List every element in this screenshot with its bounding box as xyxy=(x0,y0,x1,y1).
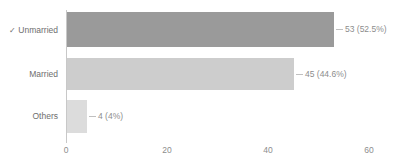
leader-line-unmarried xyxy=(336,29,343,30)
leader-line-others xyxy=(89,116,96,117)
value-label-unmarried: 53 (52.5%) xyxy=(345,24,387,34)
category-label-text: Unmarried xyxy=(18,25,58,35)
category-label-others[interactable]: Others xyxy=(0,111,58,122)
x-axis-origin-tick xyxy=(66,139,67,143)
check-icon: ✓ xyxy=(9,26,16,35)
x-tick-label-60: 60 xyxy=(364,145,373,155)
bar-row-unmarried[interactable]: ✓Unmarried 53 (52.5%) xyxy=(0,12,395,47)
category-label-text: Others xyxy=(32,111,58,121)
bar-others[interactable] xyxy=(67,100,87,133)
value-label-others: 4 (4%) xyxy=(98,111,123,121)
category-label-text: Married xyxy=(29,69,58,79)
value-label-married: 45 (44.6%) xyxy=(305,69,347,79)
bar-row-others[interactable]: Others 4 (4%) xyxy=(0,100,395,133)
category-label-unmarried[interactable]: ✓Unmarried xyxy=(0,25,58,36)
x-tick-label-40: 40 xyxy=(263,145,272,155)
bar-married[interactable] xyxy=(67,58,294,90)
x-tick-label-0: 0 xyxy=(64,145,69,155)
plot-area: ✓Unmarried 53 (52.5%) Married 45 (44.6%)… xyxy=(0,0,395,163)
bar-unmarried[interactable] xyxy=(67,12,334,47)
x-tick-label-20: 20 xyxy=(162,145,171,155)
bar-chart: ✓Unmarried 53 (52.5%) Married 45 (44.6%)… xyxy=(0,0,395,163)
bar-row-married[interactable]: Married 45 (44.6%) xyxy=(0,58,395,90)
category-label-married[interactable]: Married xyxy=(0,69,58,80)
leader-line-married xyxy=(296,74,303,75)
